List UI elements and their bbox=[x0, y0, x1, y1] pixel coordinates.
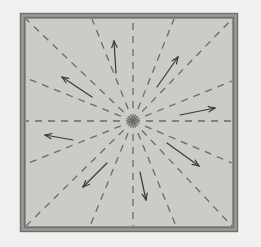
radial-ray-figure bbox=[0, 0, 261, 247]
figure-canvas bbox=[0, 0, 261, 247]
